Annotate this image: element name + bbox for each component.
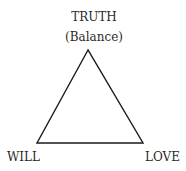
vertex-label-will: WILL (7, 150, 40, 164)
vertex-sublabel-balance: (Balance) (0, 30, 186, 44)
vertex-label-truth: TRUTH (0, 10, 186, 24)
vertex-label-love: LOVE (145, 150, 180, 164)
triangle-diagram (0, 0, 186, 171)
triangle-shape (37, 50, 143, 143)
